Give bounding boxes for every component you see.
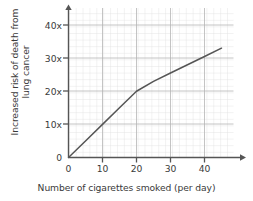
- x-axis-title: Number of cigarettes smoked (per day): [0, 182, 253, 193]
- x-axis-tickmarks: [103, 158, 205, 163]
- x-tick-label-10: 10: [88, 163, 118, 174]
- chart-figure: 0 10x 20x 30x 40x 0 10 20 30 40 Increase…: [0, 0, 253, 201]
- y-axis-title-line-2: lung cancer: [20, 46, 32, 99]
- y-axis-tickmarks: [63, 25, 69, 124]
- y-tick-label-0: 0: [28, 152, 62, 163]
- y-axis-title-line-1: Increased risk of death from: [9, 9, 21, 136]
- x-tick-label-0: 0: [54, 163, 84, 174]
- x-axis-tick-labels: 0 10 20 30 40: [0, 163, 253, 179]
- x-tick-label-40: 40: [190, 163, 220, 174]
- y-axis-title: Increased risk of death from lung cancer: [0, 0, 40, 152]
- x-tick-label-30: 30: [156, 163, 186, 174]
- x-tick-label-20: 20: [122, 163, 152, 174]
